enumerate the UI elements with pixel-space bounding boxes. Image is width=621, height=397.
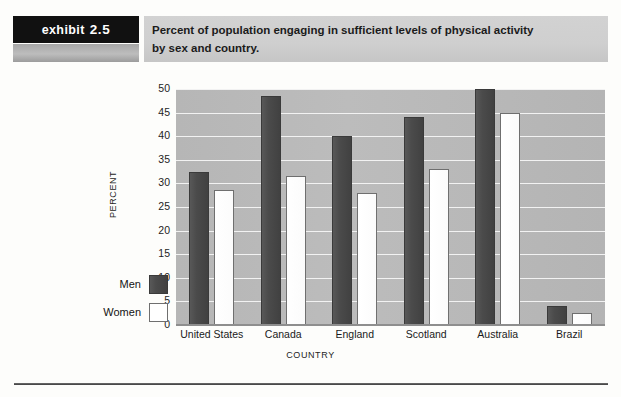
bar-women-scotland (429, 169, 449, 325)
exhibit-header: exhibit 2.5 Percent of population engagi… (13, 16, 608, 62)
legend-item-women: Women (72, 298, 168, 326)
gridline (176, 231, 605, 232)
bar-women-canada (286, 176, 306, 325)
exhibit-title: Percent of population engaging in suffic… (144, 16, 608, 62)
legend-swatch-men (149, 275, 168, 294)
gridline (176, 113, 605, 114)
exhibit-tag-accent-bar (13, 44, 139, 62)
y-axis-tick-label: 20 (142, 224, 170, 236)
legend-label-men: Men (120, 278, 141, 290)
bar-men-united-states (189, 172, 209, 325)
bar-women-england (357, 193, 377, 325)
exhibit-tag: exhibit 2.5 (13, 16, 139, 43)
bar-men-scotland (404, 117, 424, 325)
gridline (176, 160, 605, 161)
exhibit-tag-stack: exhibit 2.5 (13, 16, 139, 62)
gridline (176, 254, 605, 255)
x-axis-line (176, 324, 605, 326)
gridline (176, 278, 605, 279)
exhibit-tag-word: exhibit (42, 23, 85, 37)
x-axis-title: COUNTRY (0, 350, 621, 360)
legend-item-men: Men (72, 270, 168, 298)
y-axis-tick-label: 50 (142, 82, 170, 94)
bar-men-brazil (547, 306, 567, 325)
chart-legend: Men Women (72, 270, 168, 326)
gridline (176, 136, 605, 137)
plot-area (176, 89, 605, 325)
gridline (176, 183, 605, 184)
y-axis-tick-label: 35 (142, 153, 170, 165)
footer-divider (14, 383, 608, 385)
x-axis-label-united-states: United States (180, 328, 243, 340)
bar-women-united-states (214, 190, 234, 325)
legend-swatch-women (149, 303, 168, 322)
y-axis-tick-label: 40 (142, 129, 170, 141)
y-axis-tick-label: 45 (142, 106, 170, 118)
bar-men-england (332, 136, 352, 325)
bar-men-australia (475, 89, 495, 325)
x-axis-label-canada: Canada (265, 328, 302, 340)
y-axis-tick-label: 15 (142, 247, 170, 259)
y-axis-title: PERCENT (108, 171, 118, 218)
exhibit-title-line-2: by sex and country. (152, 39, 600, 57)
bar-chart: PERCENT 50454035302520151050 United Stat… (0, 70, 621, 370)
gridline (176, 89, 605, 90)
gridline (176, 207, 605, 208)
legend-label-women: Women (103, 306, 141, 318)
x-axis-label-brazil: Brazil (556, 328, 582, 340)
y-axis-tick-label: 25 (142, 200, 170, 212)
x-axis-label-england: England (335, 328, 374, 340)
bar-women-australia (500, 113, 520, 325)
x-axis-label-scotland: Scotland (406, 328, 447, 340)
x-axis-label-australia: Australia (477, 328, 518, 340)
y-axis-tick-label: 30 (142, 176, 170, 188)
exhibit-tag-number: 2.5 (90, 22, 111, 37)
gridline (176, 301, 605, 302)
bar-men-canada (261, 96, 281, 325)
exhibit-title-line-1: Percent of population engaging in suffic… (152, 21, 600, 39)
